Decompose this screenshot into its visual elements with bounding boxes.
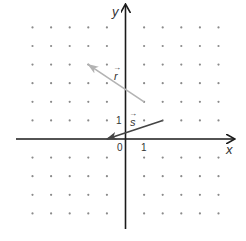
grid-dot bbox=[69, 175, 71, 177]
grid-dot bbox=[162, 157, 164, 159]
grid-dot bbox=[87, 82, 89, 84]
grid-dot bbox=[69, 119, 71, 121]
grid-dot bbox=[143, 26, 145, 28]
grid-dot bbox=[162, 212, 164, 214]
vector-s-label-text: s bbox=[130, 116, 136, 128]
grid-dot bbox=[106, 82, 108, 84]
grid-dot bbox=[143, 82, 145, 84]
y-axis-label: y bbox=[111, 4, 120, 19]
grid-dot bbox=[199, 175, 201, 177]
grid-dot bbox=[217, 64, 219, 66]
y-tick-label-1: 1 bbox=[116, 115, 122, 126]
grid-dot bbox=[69, 45, 71, 47]
grid-dot bbox=[106, 101, 108, 103]
grid-dot bbox=[162, 82, 164, 84]
grid-dot bbox=[50, 119, 52, 121]
grid-dot bbox=[199, 45, 201, 47]
grid-dot bbox=[31, 175, 33, 177]
grid-dot bbox=[199, 194, 201, 196]
grid-dot bbox=[217, 212, 219, 214]
grid-dot bbox=[143, 64, 145, 66]
grid-dot bbox=[143, 212, 145, 214]
x-tick-label-1: 1 bbox=[141, 142, 147, 153]
grid-dot bbox=[180, 157, 182, 159]
grid-dot bbox=[217, 45, 219, 47]
grid-dot bbox=[31, 157, 33, 159]
grid-dot bbox=[69, 82, 71, 84]
grid-dot bbox=[162, 64, 164, 66]
grid-dot bbox=[50, 26, 52, 28]
grid-dot bbox=[69, 212, 71, 214]
grid-dot bbox=[50, 212, 52, 214]
grid-dot bbox=[69, 64, 71, 66]
plot-svg: x y 0 1 1 → r → s bbox=[0, 0, 246, 241]
grid-dot bbox=[162, 175, 164, 177]
grid-dot bbox=[143, 45, 145, 47]
origin-label: 0 bbox=[117, 142, 123, 153]
grid-dot bbox=[217, 194, 219, 196]
grid-dot bbox=[199, 26, 201, 28]
grid-dot bbox=[50, 101, 52, 103]
grid-dot bbox=[87, 119, 89, 121]
x-axis-label: x bbox=[225, 142, 233, 157]
grid-dot bbox=[31, 26, 33, 28]
grid-dot bbox=[87, 194, 89, 196]
grid-dot bbox=[180, 64, 182, 66]
grid-dot bbox=[87, 175, 89, 177]
grid-dot bbox=[199, 119, 201, 121]
grid-dot bbox=[180, 82, 182, 84]
grid-dot bbox=[50, 194, 52, 196]
grid-dot bbox=[180, 45, 182, 47]
grid-dot bbox=[180, 212, 182, 214]
grid-dot bbox=[87, 157, 89, 159]
grid-dot bbox=[50, 157, 52, 159]
grid-dot bbox=[199, 101, 201, 103]
grid-dot bbox=[69, 101, 71, 103]
grid-dot bbox=[106, 45, 108, 47]
vector-r-label: → r bbox=[113, 63, 121, 82]
grid-dot bbox=[217, 101, 219, 103]
grid-dot bbox=[87, 101, 89, 103]
grid-dot bbox=[50, 45, 52, 47]
grid-dot bbox=[217, 157, 219, 159]
grid-dot bbox=[199, 82, 201, 84]
grid-dot bbox=[217, 26, 219, 28]
grid-dot bbox=[180, 194, 182, 196]
grid-dot bbox=[106, 212, 108, 214]
grid-dot bbox=[87, 212, 89, 214]
grid-dot bbox=[31, 64, 33, 66]
grid-dot bbox=[50, 175, 52, 177]
grid-dot bbox=[143, 194, 145, 196]
grid-dot bbox=[69, 194, 71, 196]
grid-dot bbox=[69, 26, 71, 28]
grid-dot bbox=[199, 157, 201, 159]
grid-dot bbox=[180, 101, 182, 103]
grid-dot bbox=[87, 45, 89, 47]
coordinate-plane: x y 0 1 1 → r → s bbox=[0, 0, 246, 241]
grid-dot bbox=[50, 64, 52, 66]
grid-dot bbox=[180, 175, 182, 177]
grid-dot bbox=[143, 119, 145, 121]
grid-dot bbox=[87, 26, 89, 28]
grid-dot bbox=[199, 64, 201, 66]
grid-dot bbox=[162, 101, 164, 103]
grid-dot bbox=[106, 26, 108, 28]
grid-dot bbox=[50, 82, 52, 84]
grid-dot bbox=[143, 157, 145, 159]
grid-dot bbox=[217, 175, 219, 177]
grid-dot bbox=[143, 175, 145, 177]
grid-dot bbox=[162, 194, 164, 196]
grid-dot bbox=[106, 175, 108, 177]
grid-dot bbox=[31, 82, 33, 84]
grid-dot bbox=[199, 212, 201, 214]
grid-dot bbox=[106, 194, 108, 196]
grid-dot bbox=[106, 64, 108, 66]
vector-s-label: → s bbox=[129, 109, 137, 128]
grid-dot bbox=[31, 119, 33, 121]
grid-dot bbox=[180, 26, 182, 28]
grid-dot bbox=[217, 82, 219, 84]
grid-dot bbox=[217, 119, 219, 121]
grid-dot bbox=[31, 101, 33, 103]
grid-dot bbox=[162, 45, 164, 47]
grid-dot bbox=[180, 119, 182, 121]
